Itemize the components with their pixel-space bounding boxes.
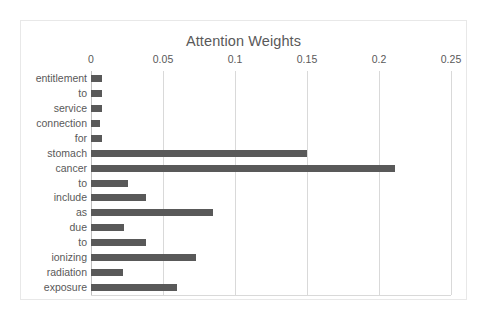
bar	[91, 165, 395, 172]
x-tick-label: 0.25	[441, 53, 461, 65]
category-label: to	[21, 88, 87, 99]
bar	[91, 209, 213, 216]
category-label: connection	[21, 118, 87, 129]
category-label: to	[21, 178, 87, 189]
x-tick-label: 0.05	[153, 53, 173, 65]
category-label: service	[21, 103, 87, 114]
category-label: for	[21, 133, 87, 144]
category-label: radiation	[21, 267, 87, 278]
bar	[91, 120, 100, 127]
category-label: stomach	[21, 148, 87, 159]
x-tick-label: 0.1	[228, 53, 243, 65]
x-axis-tick-labels: 00.050.10.150.20.25	[91, 53, 451, 69]
bar	[91, 135, 102, 142]
y-axis-category-labels: entitlementtoserviceconnectionforstomach…	[21, 71, 87, 295]
bar	[91, 269, 123, 276]
category-label: as	[21, 207, 87, 218]
category-label: to	[21, 237, 87, 248]
x-tick-label: 0	[88, 53, 94, 65]
bar	[91, 254, 196, 261]
category-label: exposure	[21, 282, 87, 293]
gridline	[163, 71, 164, 295]
category-label: ionizing	[21, 252, 87, 263]
bar	[91, 90, 102, 97]
category-label: include	[21, 192, 87, 203]
chart-title: Attention Weights	[21, 33, 466, 49]
bar	[91, 75, 102, 82]
gridline	[451, 71, 452, 295]
x-tick-label: 0.2	[372, 53, 387, 65]
gridline	[307, 71, 308, 295]
bar	[91, 150, 307, 157]
bar	[91, 105, 102, 112]
bar	[91, 180, 128, 187]
chart-frame: Attention Weights 00.050.10.150.20.25 en…	[20, 20, 467, 300]
category-label: cancer	[21, 163, 87, 174]
bar	[91, 284, 177, 291]
gridline	[379, 71, 380, 295]
category-label: due	[21, 222, 87, 233]
bar	[91, 239, 146, 246]
x-axis-line	[91, 295, 451, 296]
bar	[91, 194, 146, 201]
category-label: entitlement	[21, 73, 87, 84]
gridline	[235, 71, 236, 295]
x-tick-label: 0.15	[297, 53, 317, 65]
plot-area	[91, 71, 451, 295]
bar	[91, 224, 124, 231]
